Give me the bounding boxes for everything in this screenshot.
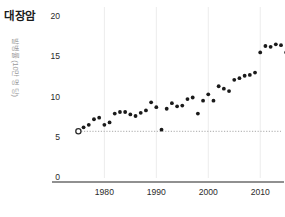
- data-point: [123, 110, 127, 114]
- data-point: [97, 116, 101, 120]
- data-point: [154, 105, 158, 109]
- scatter-plot: [0, 0, 285, 217]
- data-point: [144, 108, 148, 112]
- data-point: [113, 112, 117, 116]
- data-point: [92, 117, 96, 121]
- y-tick-label: 10: [38, 92, 60, 102]
- data-point: [232, 78, 236, 82]
- data-point: [118, 110, 122, 114]
- data-point: [238, 76, 242, 80]
- data-point: [227, 89, 231, 93]
- data-point: [180, 104, 184, 108]
- data-point: [134, 114, 138, 118]
- data-point: [175, 104, 179, 108]
- highlight-open-circle: [76, 129, 81, 134]
- data-point: [264, 44, 268, 48]
- data-points: [76, 42, 285, 133]
- data-point: [191, 96, 195, 100]
- data-point: [149, 100, 153, 104]
- y-tick-label: 5: [38, 132, 60, 142]
- data-point: [269, 45, 273, 49]
- y-tick-label: 15: [38, 51, 60, 61]
- data-point: [248, 73, 252, 77]
- x-tick-label: 2000: [191, 187, 225, 197]
- data-point: [102, 123, 106, 127]
- data-point: [279, 43, 283, 47]
- data-point: [196, 112, 200, 116]
- data-point: [128, 113, 132, 117]
- data-point: [82, 125, 86, 129]
- y-tick-label: 20: [38, 11, 60, 21]
- data-point: [212, 99, 216, 103]
- data-point: [258, 51, 262, 55]
- data-point: [186, 97, 190, 101]
- x-tick-label: 2010: [243, 187, 277, 197]
- data-point: [139, 111, 143, 115]
- data-point: [243, 74, 247, 78]
- data-point: [201, 99, 205, 103]
- gridlines: [104, 7, 260, 178]
- data-point: [170, 101, 174, 105]
- data-point: [87, 123, 91, 127]
- data-point: [108, 121, 112, 125]
- data-point: [274, 42, 278, 46]
- chart-container: 대장암 발병률 (10만 명 당) 05101520 1980199020002…: [0, 0, 285, 217]
- data-point: [253, 71, 257, 75]
- x-tick-label: 1980: [87, 187, 121, 197]
- highlight-markers: [76, 35, 285, 134]
- data-point: [160, 128, 164, 132]
- data-point: [217, 84, 221, 88]
- x-tick-label: 1990: [139, 187, 173, 197]
- data-point: [165, 107, 169, 111]
- data-point: [222, 87, 226, 91]
- data-point: [206, 92, 210, 96]
- data-point: [284, 51, 285, 55]
- y-tick-label: 0: [38, 172, 60, 182]
